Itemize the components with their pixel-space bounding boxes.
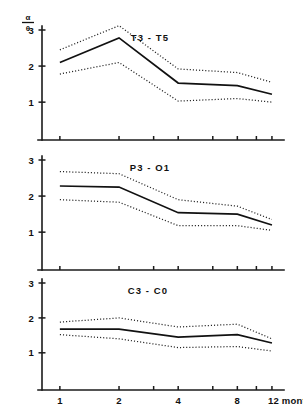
y-axis-unit-numerator: α <box>26 13 31 22</box>
confidence-limit-curve <box>60 335 272 351</box>
y-axis-tick-label: 2 <box>29 313 34 324</box>
x-axis-tick-label: 2 <box>116 395 121 406</box>
mean-curve <box>60 329 272 343</box>
x-axis-tick-labels: 124812 months <box>57 395 303 406</box>
y-axis-tick-label: 1 <box>29 347 35 358</box>
panel-title: T3 - T5 <box>131 32 169 43</box>
y-axis-tick-label: 3 <box>29 25 34 36</box>
y-axis-tick-label: 3 <box>29 155 34 166</box>
y-axis-tick-label: 3 <box>29 278 34 289</box>
confidence-limit-curve <box>60 62 272 102</box>
y-axis-tick-label: 2 <box>29 191 34 202</box>
mean-curve <box>60 186 272 225</box>
panel-title: C3 - C0 <box>128 285 168 296</box>
x-axis-tick-label: 1 <box>57 395 63 406</box>
panel-3: 123C3 - C0 <box>29 278 284 390</box>
mean-curve <box>60 38 272 94</box>
y-axis-tick-label: 2 <box>29 61 34 72</box>
chart-canvas: αθ123T3 - T5123P3 - O1123C3 - C0124812 m… <box>0 0 303 419</box>
panel-title: P3 - O1 <box>130 162 170 173</box>
x-axis-tick-label: 8 <box>235 395 240 406</box>
panel-2: 123P3 - O1 <box>29 155 284 270</box>
panel-1: 123T3 - T5 <box>29 25 284 140</box>
y-axis-tick-label: 1 <box>29 97 35 108</box>
x-axis-tick-label: 4 <box>175 395 181 406</box>
y-axis-tick-label: 1 <box>29 227 35 238</box>
confidence-limit-curve <box>60 172 272 220</box>
x-axis-caption: 12 months <box>268 395 303 406</box>
eeg-ratio-figure: αθ123T3 - T5123P3 - O1123C3 - C0124812 m… <box>0 0 303 419</box>
